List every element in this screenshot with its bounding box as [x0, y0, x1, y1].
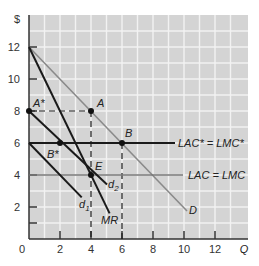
label-b-star: B* — [47, 148, 59, 160]
point-a-star — [26, 108, 32, 114]
y-tick-label-8: 8 — [14, 105, 20, 117]
x-tick-label-4: 4 — [88, 243, 94, 255]
y-tick-label-12: 12 — [8, 41, 20, 53]
y-axis-label: $ — [14, 13, 20, 25]
label-lac-star: LAC* = LMC* — [178, 137, 244, 149]
y-tick-label-6: 6 — [14, 137, 20, 149]
label-mr: MR — [101, 214, 118, 226]
label-a-star: A* — [32, 97, 45, 109]
label-lac: LAC = LMC — [188, 169, 245, 181]
point-e — [88, 172, 94, 178]
x-axis-label: Q — [240, 243, 249, 255]
x-tick-label-6: 6 — [119, 243, 125, 255]
y-tick-label-4: 4 — [14, 169, 20, 181]
y-tick-label-2: 2 — [14, 201, 20, 213]
x-tick-label-12: 12 — [209, 243, 221, 255]
origin-label: 0 — [19, 243, 25, 255]
label-e: E — [95, 160, 103, 172]
label-a: A — [96, 97, 104, 109]
x-tick-label-2: 2 — [57, 243, 63, 255]
point-b — [119, 140, 125, 146]
y-tick-label-10: 10 — [8, 73, 20, 85]
label-b: B — [125, 127, 132, 139]
x-tick-label-8: 8 — [150, 243, 156, 255]
x-tick-label-10: 10 — [178, 243, 190, 255]
point-a — [88, 108, 94, 114]
economics-chart: $ 12 10 8 6 4 2 0 2 4 6 8 10 12 Q A* A B… — [0, 0, 259, 266]
label-demand-d: D — [189, 204, 197, 216]
point-b-star — [57, 140, 63, 146]
